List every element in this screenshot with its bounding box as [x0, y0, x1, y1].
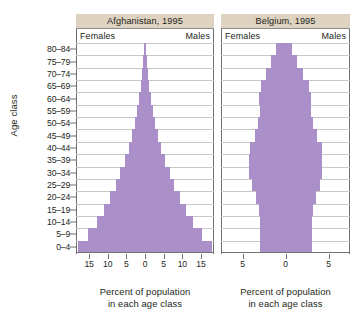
sex-label-row: FemalesMales: [76, 30, 214, 43]
bar-females: [249, 154, 285, 166]
y-axis-tick-label: 20–24: [47, 193, 70, 202]
bar-females: [137, 105, 145, 117]
bar-males: [286, 105, 312, 117]
bar-males: [145, 55, 147, 67]
bar-females: [88, 228, 145, 240]
bar-row: [76, 154, 214, 166]
bar-females: [271, 55, 286, 67]
bar-males: [145, 68, 148, 80]
plot-baseline: [76, 252, 214, 253]
bar-row: [76, 228, 214, 240]
bar-row: [221, 204, 350, 216]
x-axis: 505: [221, 254, 350, 262]
bar-females: [125, 154, 145, 166]
bar-row: [76, 80, 214, 92]
x-axis-tick-label: 5: [124, 260, 129, 269]
bar-row: [221, 154, 350, 166]
panel-title: Belgium, 1995: [221, 14, 350, 29]
bar-females: [259, 204, 286, 216]
bar-males: [145, 204, 186, 216]
bar-row: [76, 68, 214, 80]
bar-males: [286, 80, 309, 92]
panel-afghanistan: Afghanistan, 1995FemalesMales15105051015…: [76, 14, 214, 254]
bar-row: [76, 117, 214, 129]
bar-row: [221, 80, 350, 92]
y-axis-tick-label: 80–84: [47, 45, 70, 54]
x-axis-tick-label: 15: [84, 260, 93, 269]
bar-females: [261, 80, 286, 92]
x-axis-caption-line2: in each age class: [68, 298, 222, 309]
bar-row: [221, 167, 350, 179]
panel-belgium: Belgium, 1995FemalesMales505Percent of p…: [221, 14, 350, 254]
bar-males: [286, 204, 314, 216]
y-axis-tick-list: 0–45–910–1415–1920–2425–2930–3435–3940–4…: [24, 38, 76, 253]
plot-baseline: [221, 252, 350, 253]
bar-row: [76, 191, 214, 203]
bar-males: [145, 216, 193, 228]
bar-females: [250, 142, 285, 154]
bar-row: [221, 43, 350, 55]
bar-males: [286, 129, 318, 141]
bar-males: [286, 117, 314, 129]
y-axis-tick-label: 75–79: [47, 57, 70, 66]
y-axis-tick-label: 15–19: [47, 205, 70, 214]
bar-row: [76, 167, 214, 179]
males-label: Males: [185, 30, 210, 43]
bar-males: [286, 68, 303, 80]
females-label: Females: [225, 30, 260, 43]
bar-females: [120, 167, 145, 179]
x-axis-tick-label: 5: [326, 260, 331, 269]
bar-row: [76, 129, 214, 141]
bar-males: [286, 55, 297, 67]
bar-row: [76, 92, 214, 104]
bar-males: [145, 43, 146, 55]
bar-row: [221, 105, 350, 117]
bar-females: [259, 92, 286, 104]
plot-area: [221, 43, 350, 253]
plot-area: [76, 43, 214, 253]
bar-females: [256, 191, 285, 203]
x-axis-tick-label: 0: [143, 260, 148, 269]
bar-males: [145, 117, 155, 129]
bar-females: [252, 179, 286, 191]
bar-males: [145, 105, 153, 117]
y-axis-tick-label: 70–74: [47, 70, 70, 79]
x-axis: 15105051015: [76, 254, 214, 262]
bar-females: [258, 117, 286, 129]
bar-males: [145, 129, 158, 141]
bar-row: [76, 179, 214, 191]
y-axis-tick-label: 25–29: [47, 181, 70, 190]
bar-row: [221, 216, 350, 228]
x-axis-tick-label: 5: [161, 260, 166, 269]
x-axis-tick-label: 5: [240, 260, 245, 269]
x-axis-caption-line1: Percent of population: [213, 286, 356, 298]
y-axis-tick-label: 40–44: [47, 144, 70, 153]
y-axis-tick-label: 60–64: [47, 94, 70, 103]
bar-males: [145, 167, 170, 179]
bar-males: [145, 179, 174, 191]
panel-title: Afghanistan, 1995: [76, 14, 214, 29]
x-axis-tick-label: 0: [283, 260, 288, 269]
bar-row: [221, 129, 350, 141]
bar-females: [97, 216, 145, 228]
bar-females: [276, 43, 285, 55]
y-axis-tick-label: 65–69: [47, 82, 70, 91]
females-label: Females: [80, 30, 115, 43]
males-label: Males: [321, 30, 346, 43]
x-axis-caption: Percent of populationin each age class: [213, 286, 356, 309]
bar-row: [221, 68, 350, 80]
bar-females: [116, 179, 145, 191]
bar-females: [249, 167, 285, 179]
y-axis-tick-label: 0–4: [56, 243, 70, 252]
y-axis-tick-label: 10–14: [47, 218, 70, 227]
bar-males: [145, 154, 165, 166]
bar-males: [145, 80, 149, 92]
bar-row: [76, 142, 214, 154]
y-axis-tick-label: 5–9: [56, 230, 70, 239]
bar-males: [145, 228, 202, 240]
bar-row: [221, 228, 350, 240]
x-axis-caption-line1: Percent of population: [68, 286, 222, 298]
bar-males: [286, 43, 292, 55]
bar-females: [255, 129, 286, 141]
bar-row: [76, 216, 214, 228]
